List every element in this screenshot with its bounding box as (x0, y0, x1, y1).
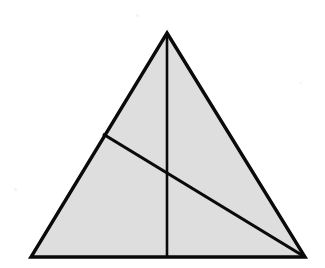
triangle-diagram-svg (0, 0, 325, 268)
geometry-figure-canvas (0, 0, 325, 268)
